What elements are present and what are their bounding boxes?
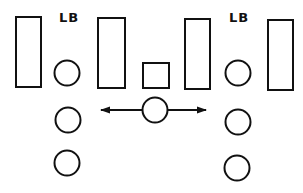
player-circle <box>225 156 250 181</box>
lineman-rectangle <box>185 19 210 89</box>
player-circle <box>226 110 251 135</box>
lineman-rectangle <box>16 17 41 87</box>
lineman-rectangle <box>268 20 293 90</box>
player-circle <box>55 151 80 176</box>
moving-player-circle <box>143 98 168 123</box>
linebacker-label: LB <box>59 10 79 25</box>
linebacker-label: LB <box>229 10 249 25</box>
player-circle <box>226 61 251 86</box>
center-square <box>143 63 169 88</box>
player-circle <box>56 108 81 133</box>
lineman-rectangle <box>98 18 125 88</box>
player-circle <box>55 61 80 86</box>
formation-diagram: LBLB <box>0 0 303 193</box>
